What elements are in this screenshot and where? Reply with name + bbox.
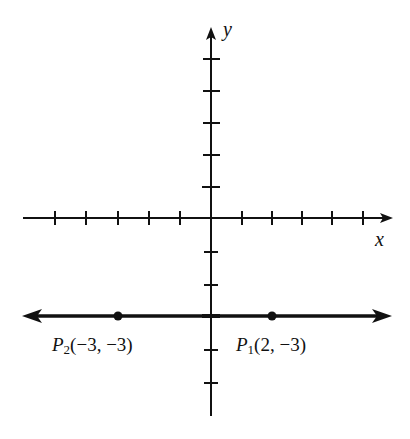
x-axis-label: x bbox=[375, 228, 384, 251]
point-p2 bbox=[114, 312, 123, 321]
coordinate-plane-diagram: y x P2(−3, −3) P1(2, −3) bbox=[0, 0, 410, 439]
point-p2-name: P bbox=[52, 334, 64, 355]
point-p2-label: P2(−3, −3) bbox=[52, 334, 133, 358]
point-p1 bbox=[268, 312, 277, 321]
point-p2-coords: (−3, −3) bbox=[70, 334, 133, 355]
x-axis bbox=[23, 211, 393, 225]
point-p1-label: P1(2, −3) bbox=[236, 334, 306, 358]
y-axis-label: y bbox=[223, 18, 232, 41]
y-axis bbox=[202, 27, 220, 416]
line-y-equals-neg3 bbox=[22, 309, 392, 323]
axes-graphic bbox=[0, 0, 410, 439]
point-p1-coords: (2, −3) bbox=[254, 334, 306, 355]
point-p1-name: P bbox=[236, 334, 248, 355]
